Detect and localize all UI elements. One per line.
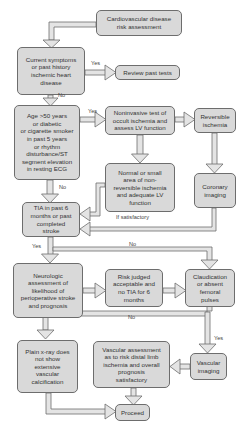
node-age: Age >50 years or diabetic or cigarette s…	[14, 105, 80, 180]
arrow-noninvasive-to-normal	[132, 135, 149, 163]
arrow-age-to-noninvasive	[80, 112, 106, 127]
node-vascular-assessment: Vascular assessment as to risk distal li…	[93, 341, 170, 388]
node-plain-xray: Plain x-ray does not show extensive vasc…	[17, 340, 78, 393]
label-yes-age: Yes	[88, 108, 97, 114]
node-current-symptoms: Current symptoms or past history ischemi…	[17, 47, 85, 95]
flowchart: .shaft { fill: #e4e4e4; stroke: #6d6d6d;…	[0, 0, 242, 426]
arrow-noninvasive-to-reversible	[175, 112, 195, 127]
arrow-normal-to-tia	[80, 183, 105, 221]
arrow-cvrisk-to-symptoms	[43, 22, 96, 48]
arrow-vassessment-to-proceed	[125, 388, 142, 405]
arrow-age-to-tia	[42, 180, 59, 203]
label-yes-claudication: Yes	[214, 335, 223, 341]
arrow-claudication-to-vimaging	[199, 312, 216, 353]
label-yes-tia: Yes	[32, 243, 41, 249]
arrow-xray-to-proceed	[46, 393, 116, 419]
node-cv-risk: Cardiovascular disease risk assessment	[96, 10, 182, 36]
label-no-claudication: No	[128, 314, 135, 320]
arrow-symptoms-to-review	[85, 65, 116, 80]
node-claudication: Claudication or absent femoral pulses	[185, 269, 235, 307]
node-risk-judged: Risk judged acceptable and no TIA for 6 …	[105, 269, 163, 307]
node-noninvasive: Noninvasive test of occult ischemia and …	[105, 106, 175, 135]
node-review-tests: Review past tests	[115, 65, 180, 80]
label-if-satisfactory: If satisfactory	[116, 214, 149, 220]
label-no-symptoms: No	[58, 92, 65, 98]
label-no-tia: No	[129, 241, 136, 247]
arrow-vimaging-to-vassessment	[170, 359, 190, 374]
node-normal-small: Normal or small area of non- reversible …	[105, 163, 175, 212]
node-vascular-imaging: Vascular imaging	[190, 353, 227, 380]
node-reversible: Reversible ischemia	[194, 108, 236, 133]
label-yes-symptoms: Yes	[91, 60, 100, 66]
arrow-reversible-to-coronary	[206, 133, 223, 173]
node-proceed: Proceed	[115, 404, 150, 421]
node-tia: TIA in past 6 months or past completed s…	[22, 202, 80, 237]
node-coronary: Coronary imaging	[194, 173, 236, 208]
node-neurologic: Neurologic assessment of likelihood of p…	[13, 263, 83, 318]
arrow-risk-to-claudication	[163, 283, 186, 298]
arrow-neurologic-to-risk	[83, 283, 106, 298]
label-no-age: No	[59, 184, 66, 190]
